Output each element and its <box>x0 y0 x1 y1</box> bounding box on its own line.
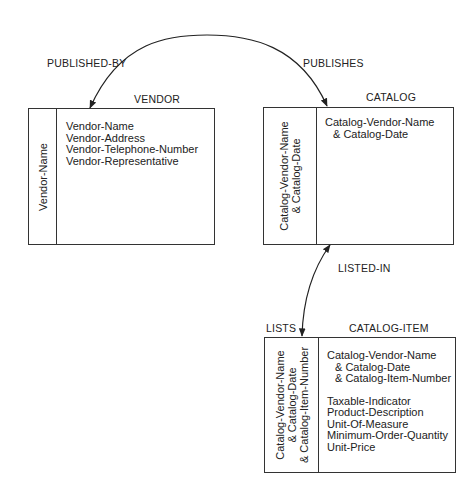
vendor-key: Vendor-Name <box>37 143 49 211</box>
attribute: Catalog-Vendor-Name <box>327 350 451 362</box>
attribute: Catalog-Vendor-Name <box>325 117 434 129</box>
entity-catalog: Catalog-Vendor-Name & Catalog-Date Catal… <box>263 107 454 245</box>
relationship-label-publishes: PUBLISHES <box>303 57 364 69</box>
catalog-key-column: Catalog-Vendor-Name & Catalog-Date <box>264 108 317 244</box>
attribute: Vendor-Representative <box>66 156 198 168</box>
entity-catalog-item: Catalog-Vendor-Name & Catalog-Date & Cat… <box>264 337 456 473</box>
catalog-attributes: Catalog-Vendor-Name & Catalog-Date <box>325 117 434 140</box>
vendor-key-column: Vendor-Name <box>29 109 57 244</box>
entity-title-vendor: VENDOR <box>134 93 180 105</box>
entity-title-catalog: CATALOG <box>366 91 416 103</box>
catalog-item-key: Catalog-Vendor-Name & Catalog-Date & Cat… <box>274 347 310 463</box>
listed-in-arc <box>302 245 330 336</box>
relationship-label-listed-in: LISTED-IN <box>338 262 391 274</box>
publishes-arc <box>90 35 327 108</box>
catalog-item-key-column: Catalog-Vendor-Name & Catalog-Date & Cat… <box>265 338 319 472</box>
attribute: Vendor-Telephone-Number <box>66 144 198 156</box>
attribute: Unit-Price <box>327 442 451 454</box>
attribute: & Catalog-Item-Number <box>327 373 451 385</box>
entity-title-catalog-item: CATALOG-ITEM <box>349 322 429 334</box>
catalog-key: Catalog-Vendor-Name & Catalog-Date <box>278 121 302 230</box>
attribute: Product-Description <box>327 407 451 419</box>
relationship-label-lists: LISTS <box>266 322 296 334</box>
catalog-item-attributes: Catalog-Vendor-Name & Catalog-Date & Cat… <box>327 350 451 453</box>
entity-vendor: Vendor-Name Vendor-Name Vendor-Address V… <box>28 108 215 245</box>
relationship-label-published-by: PUBLISHED-BY <box>47 57 126 69</box>
attribute: Minimum-Order-Quantity <box>327 430 451 442</box>
vendor-attributes: Vendor-Name Vendor-Address Vendor-Teleph… <box>66 121 198 167</box>
attribute: & Catalog-Date <box>325 129 434 141</box>
attribute: Vendor-Name <box>66 121 198 133</box>
